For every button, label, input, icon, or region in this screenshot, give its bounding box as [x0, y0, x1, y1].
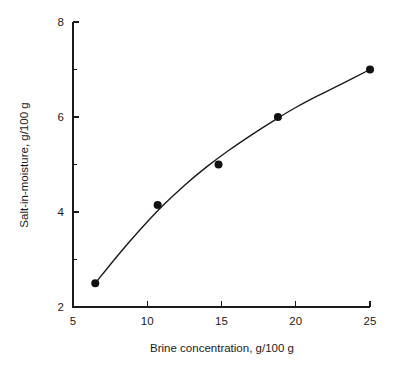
x-tick-label: 25: [364, 315, 377, 327]
x-tick-label: 15: [215, 315, 228, 327]
x-tick-label: 10: [141, 315, 154, 327]
scatter-plot: 510152025 2468 Brine concentration, g/10…: [0, 0, 398, 371]
chart-figure: 510152025 2468 Brine concentration, g/10…: [0, 0, 398, 371]
y-tick-label: 6: [58, 111, 64, 123]
data-point-marker: [215, 161, 223, 169]
y-axis-title: Salt-in-moisture, g/100 g: [18, 102, 30, 227]
y-tick-label: 4: [58, 206, 65, 218]
x-tick-label: 5: [70, 315, 76, 327]
chart-background: [0, 0, 398, 371]
data-point-marker: [274, 113, 282, 121]
data-point-marker: [91, 279, 99, 287]
x-axis-title: Brine concentration, g/100 g: [150, 342, 294, 354]
x-tick-label: 20: [289, 315, 302, 327]
y-tick-label: 2: [58, 301, 64, 313]
data-point-marker: [366, 66, 374, 74]
y-tick-label: 8: [58, 16, 64, 28]
data-point-marker: [154, 201, 162, 209]
